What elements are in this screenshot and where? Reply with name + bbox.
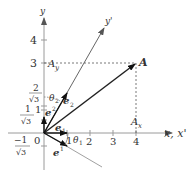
e2-label: e 2 xyxy=(63,95,74,108)
theta2-label: θ 2 xyxy=(49,93,59,104)
x-tick-1: 1 xyxy=(66,135,72,146)
origin-label: 0 xyxy=(34,135,40,146)
e-sup1-label: e 1 xyxy=(53,145,64,158)
point-a-label: A xyxy=(138,56,148,69)
e1-label: e 1 xyxy=(55,122,66,134)
y-tick-3: 3 xyxy=(30,57,37,70)
y-tick-1-over-root3: 1 √3 xyxy=(20,104,34,126)
svg-text:1: 1 xyxy=(25,104,31,114)
svg-text:e: e xyxy=(45,107,51,118)
svg-text:x: x xyxy=(138,122,142,130)
svg-text:1: 1 xyxy=(79,139,83,146)
svg-text:2: 2 xyxy=(55,97,59,104)
svg-text:√3: √3 xyxy=(16,148,26,157)
svg-text:1: 1 xyxy=(62,127,66,134)
svg-text:e: e xyxy=(53,147,59,158)
svg-text:e: e xyxy=(55,122,61,133)
svg-text:e: e xyxy=(63,95,69,106)
y-tick-2-over-root3: 2 √3 xyxy=(29,83,42,104)
svg-text:1: 1 xyxy=(60,145,64,152)
svg-text:2: 2 xyxy=(33,83,39,93)
x-axis-label: x, x' xyxy=(164,127,186,140)
svg-text:A: A xyxy=(130,116,138,127)
x-tick-2: 2 xyxy=(86,136,92,147)
x-tick-4: 4 xyxy=(133,136,139,147)
svg-text:2: 2 xyxy=(52,105,56,112)
y-tick-minus1-over-root3: −1 √3 xyxy=(14,135,30,157)
svg-text:2: 2 xyxy=(70,101,74,108)
yprime-axis-label: y' xyxy=(104,16,113,26)
svg-text:A: A xyxy=(47,58,55,69)
ay-label: A y xyxy=(47,58,60,72)
svg-text:√3: √3 xyxy=(21,117,31,126)
svg-text:−1: −1 xyxy=(14,135,27,145)
y-tick-1: 1 xyxy=(35,104,41,115)
svg-text:√3: √3 xyxy=(29,95,39,104)
svg-text:y: y xyxy=(54,64,60,72)
x-tick-3: 3 xyxy=(110,136,116,147)
vector-diagram: y y' x, x' 4 3 1 2 √3 1 √3 −1 √3 0 1 2 3… xyxy=(0,0,192,174)
y-tick-4: 4 xyxy=(30,34,37,47)
theta1-label: θ 1 xyxy=(73,135,83,146)
y-axis-label: y xyxy=(39,6,46,16)
